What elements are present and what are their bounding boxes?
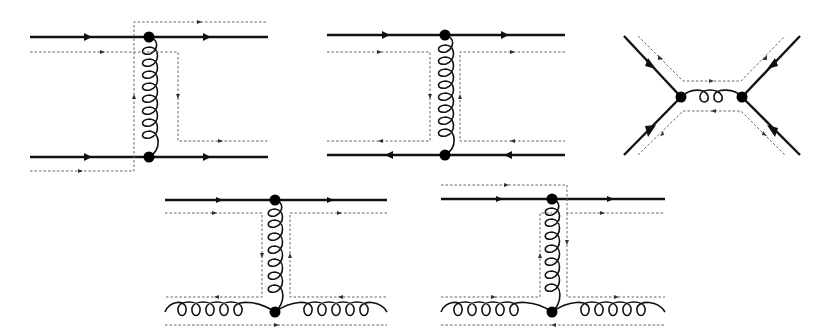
arrow-left-icon [338, 295, 343, 299]
arrow-icon [762, 131, 767, 136]
arrow-down-icon [428, 94, 432, 99]
arrow-right-icon [203, 153, 211, 161]
arrow-left-icon [551, 323, 556, 327]
arrow-right-icon [600, 211, 605, 215]
gluon-propagator [268, 200, 283, 312]
vertex [547, 307, 558, 318]
vertex [144, 152, 155, 163]
vertex [270, 195, 281, 206]
vertex [547, 194, 558, 205]
antiquark-line-out [742, 97, 800, 155]
color-flow-line [30, 52, 268, 141]
arrow-right-icon [218, 139, 223, 143]
color-flow-line [567, 213, 665, 297]
arrow-left-icon [510, 139, 515, 143]
color-flow-line [441, 213, 552, 297]
arrow-up-icon [458, 94, 462, 99]
arrow-icon [711, 109, 716, 113]
arrow-icon [762, 55, 767, 60]
vertex [440, 30, 451, 41]
color-flow-line [290, 213, 387, 297]
arrow-down-icon [176, 94, 180, 99]
arrow-right-icon [78, 169, 83, 173]
arrow-icon [709, 79, 714, 83]
arrow-left-icon [214, 295, 219, 299]
arrow-right-icon [212, 211, 217, 215]
gluon-propagator [545, 199, 560, 312]
arrow-right-icon [607, 196, 614, 202]
arrow-icon [645, 125, 656, 137]
arrow-up-icon [288, 253, 292, 258]
arrow-right-icon [337, 211, 342, 215]
arrow-right-icon [614, 295, 619, 299]
arrow-right-icon [84, 153, 92, 161]
arrow-right-icon [501, 31, 509, 39]
arrow-right-icon [327, 197, 334, 203]
gluon-propagator [439, 35, 455, 155]
arrow-icon [658, 55, 663, 60]
arrow-up-icon [132, 94, 136, 99]
diagram-5-qg-scattering [441, 183, 665, 327]
arrow-left-icon [378, 139, 383, 143]
arrow-right-icon [510, 50, 515, 54]
arrow-icon [767, 125, 778, 137]
gluon-propagator [681, 90, 742, 102]
feynman-diagrams-figure [0, 0, 827, 336]
diagram-3-annihilation [624, 36, 800, 155]
color-flow-line [327, 52, 430, 141]
arrow-right-icon [377, 50, 382, 54]
vertex [737, 92, 748, 103]
arrow-left-icon [504, 151, 512, 159]
arrow-right-icon [100, 50, 105, 54]
diagram-2-qqbar-scattering [327, 30, 565, 161]
vertex [676, 92, 687, 103]
arrow-right-icon [504, 183, 509, 187]
diagram-1-qq-scattering [30, 20, 268, 173]
arrow-up-icon [538, 253, 542, 258]
vertex [144, 32, 155, 43]
arrow-right-icon [491, 295, 496, 299]
arrow-right-icon [84, 33, 92, 41]
arrow-right-icon [203, 33, 211, 41]
arrow-down-icon [565, 240, 569, 245]
vertex [270, 307, 281, 318]
arrow-right-icon [382, 31, 390, 39]
arrow-right-icon [274, 323, 279, 327]
arrow-right-icon [197, 20, 202, 24]
color-flow-line [460, 52, 565, 141]
arrow-down-icon [260, 253, 264, 258]
vertex [440, 150, 451, 161]
arrow-left-icon [385, 151, 393, 159]
diagram-4-qg-scattering [165, 195, 387, 328]
color-flow-line [30, 22, 268, 171]
arrow-right-icon [216, 197, 223, 203]
gluon-propagator [143, 37, 159, 157]
color-flow-line [165, 213, 262, 297]
arrow-right-icon [496, 196, 503, 202]
